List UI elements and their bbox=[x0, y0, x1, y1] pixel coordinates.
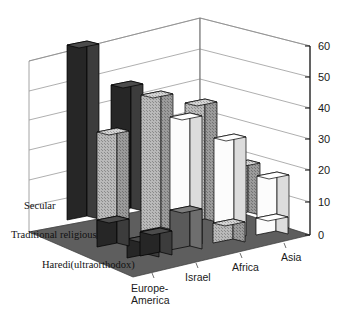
bar-haredi-israel bbox=[170, 206, 202, 250]
bar-secular-europe-america bbox=[67, 41, 99, 220]
tick-label-30: 30 bbox=[318, 133, 330, 145]
bar-traditional-israel bbox=[141, 91, 173, 231]
tick-label-0: 0 bbox=[318, 229, 324, 241]
chart-canvas: 60 50 40 30 20 10 0 Europe- America Isra… bbox=[0, 0, 356, 318]
tick-label-40: 40 bbox=[318, 102, 330, 114]
chart-3d-bar: 60 50 40 30 20 10 0 Europe- America Isra… bbox=[0, 0, 356, 318]
category-label-africa: Africa bbox=[232, 261, 259, 273]
bar-haredi-asia bbox=[256, 214, 288, 235]
category-label-america: America bbox=[131, 294, 170, 306]
bar-extra-2 bbox=[140, 228, 172, 256]
series-label-traditional-religious: Traditional religious bbox=[11, 229, 97, 240]
series-label-secular: Secular bbox=[24, 200, 56, 211]
tick-label-50: 50 bbox=[318, 71, 330, 83]
category-label-israel: Israel bbox=[185, 271, 211, 283]
tick-label-60: 60 bbox=[318, 40, 330, 52]
bar-extra-1 bbox=[97, 216, 129, 247]
tick-label-20: 20 bbox=[318, 164, 330, 176]
bar-haredi-africa bbox=[213, 219, 245, 243]
category-label-europe: Europe- bbox=[131, 282, 169, 294]
tick-label-10: 10 bbox=[318, 196, 330, 208]
value-axis-tick-labels: 60 50 40 30 20 10 0 bbox=[318, 40, 330, 241]
category-label-asia: Asia bbox=[281, 251, 302, 263]
series-label-haredi: Haredi(ultraorthodox) bbox=[42, 259, 135, 271]
